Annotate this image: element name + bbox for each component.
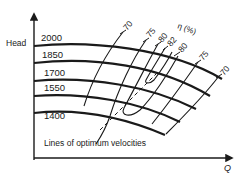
efficiency-label-left-70: 70 xyxy=(121,18,135,32)
optimum-velocities-annotation: Lines of optimum velocities xyxy=(44,138,146,148)
x-axis-label: Q xyxy=(224,163,231,173)
efficiency-unit-label: η (%) xyxy=(176,21,197,36)
y-axis-label: Head xyxy=(6,38,27,48)
pump-efficiency-diagram: Head 2000 1850 1700 1550 1400 70 75 80 8… xyxy=(0,0,248,177)
head-label-2000: 2000 xyxy=(41,32,62,43)
head-label-1850: 1850 xyxy=(42,49,63,60)
efficiency-label-right-75: 75 xyxy=(197,48,211,62)
efficiency-label-right-80: 80 xyxy=(176,40,190,54)
efficiency-curves xyxy=(84,32,219,144)
head-label-1700: 1700 xyxy=(44,67,65,78)
efficiency-line-right-70 xyxy=(166,76,219,134)
head-label-1550: 1550 xyxy=(44,82,65,93)
efficiency-line-left-75 xyxy=(96,40,146,144)
head-label-1400: 1400 xyxy=(44,110,65,121)
